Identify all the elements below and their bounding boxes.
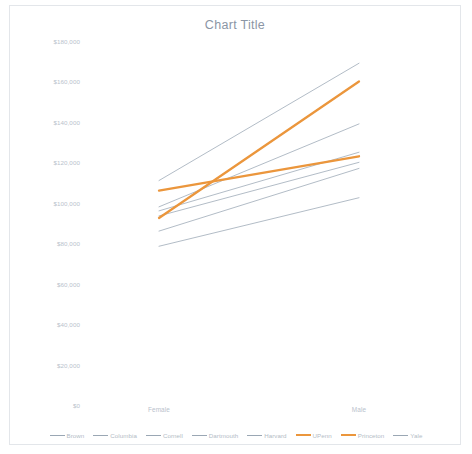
legend-item-harvard[interactable]: Harvard <box>247 432 286 439</box>
legend-item-columbia[interactable]: Columbia <box>93 432 137 439</box>
legend-item-label: Dartmouth <box>209 432 238 439</box>
x-axis-tick-label: Male <box>352 406 366 413</box>
legend-item-cornell[interactable]: Cornell <box>146 432 183 439</box>
x-axis-tick-label: Female <box>148 406 170 413</box>
legend-swatch-icon <box>393 435 408 436</box>
legend-item-label: Brown <box>67 432 85 439</box>
legend-item-label: UPenn <box>313 432 332 439</box>
legend-swatch-icon <box>50 435 65 436</box>
legend-swatch-icon <box>247 435 262 436</box>
x-axis: FemaleMale <box>10 6 462 446</box>
legend-item-dartmouth[interactable]: Dartmouth <box>192 432 238 439</box>
legend-swatch-icon <box>93 435 108 436</box>
legend-item-label: Cornell <box>163 432 183 439</box>
legend-swatch-icon <box>192 435 207 436</box>
legend-item-princeton[interactable]: Princeton <box>341 432 385 439</box>
legend-item-upenn[interactable]: UPenn <box>296 432 332 439</box>
legend-item-label: Princeton <box>358 432 385 439</box>
chart-card: Chart Title $180,000$160,000$140,000$120… <box>9 5 461 445</box>
legend-item-label: Harvard <box>264 432 286 439</box>
legend-swatch-icon <box>296 434 311 436</box>
chart-legend: BrownColumbiaCornellDartmouthHarvardUPen… <box>10 426 462 444</box>
legend-item-label: Yale <box>410 432 422 439</box>
legend-item-label: Columbia <box>110 432 137 439</box>
legend-swatch-icon <box>146 435 161 436</box>
legend-swatch-icon <box>341 434 356 436</box>
legend-item-yale[interactable]: Yale <box>393 432 422 439</box>
legend-item-brown[interactable]: Brown <box>50 432 85 439</box>
